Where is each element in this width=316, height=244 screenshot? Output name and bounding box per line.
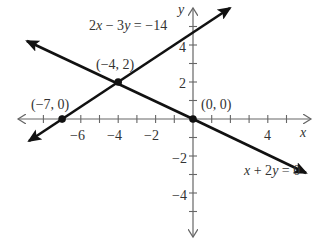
x-tick-label-minus6: −6 <box>70 129 85 143</box>
x-tick-label-minus4: −4 <box>107 129 122 143</box>
chart-canvas: 2x − 3y = −14 x + 2y = 0 (−4, 2) (−7, 0)… <box>0 0 316 244</box>
y-axis-label: y <box>178 3 184 17</box>
point-label-origin: (0, 0) <box>201 98 231 112</box>
point-origin <box>189 115 197 123</box>
y-tick-label-4: 4 <box>179 41 186 55</box>
y-tick-label-2: 2 <box>179 77 186 91</box>
x-tick-label-4: 4 <box>264 129 271 143</box>
y-tick-label-minus2: −2 <box>172 152 187 166</box>
equation-label-1: 2x − 3y = −14 <box>89 19 167 33</box>
point-x-intercept <box>58 115 66 123</box>
point-label-intersection: (−4, 2) <box>96 58 134 72</box>
x-axis-label: x <box>300 126 306 140</box>
equation-label-2: x + 2y = 0 <box>244 164 300 178</box>
x-tick-label-minus2: −2 <box>144 129 159 143</box>
y-tick-label-minus4: −4 <box>172 189 187 203</box>
point-label-x-intercept: (−7, 0) <box>31 98 69 112</box>
point-intersection <box>114 78 122 86</box>
graph-svg <box>0 0 316 244</box>
